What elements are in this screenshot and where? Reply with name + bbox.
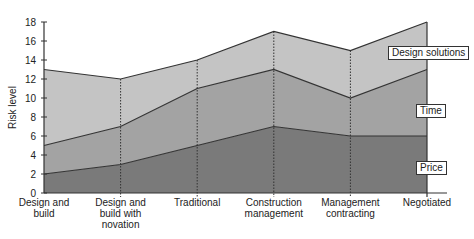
- x-category-label: Negotiated: [403, 197, 451, 208]
- legend-label-price: Price: [416, 161, 447, 175]
- y-tick-label: 8: [30, 112, 36, 123]
- x-category-label: Traditional: [174, 197, 220, 208]
- y-tick-label: 10: [25, 93, 37, 104]
- y-tick-label: 6: [30, 131, 36, 142]
- y-tick-label: 12: [25, 74, 37, 85]
- x-category-label: Constructionmanagement: [245, 197, 304, 219]
- y-tick-label: 18: [25, 17, 37, 28]
- x-category-label: Design andbuild withnovation: [95, 197, 146, 230]
- x-category-label: Design andbuild: [19, 197, 70, 219]
- y-tick-label: 4: [30, 150, 36, 161]
- legend-label-design-solutions: Design solutions: [388, 46, 469, 60]
- stacked-area-chart: 024681012141618Risk levelDesign andbuild…: [0, 0, 474, 239]
- y-tick-label: 14: [25, 55, 37, 66]
- y-axis-title: Risk level: [7, 86, 18, 129]
- y-tick-label: 2: [30, 169, 36, 180]
- x-category-label: Managementcontracting: [321, 197, 380, 219]
- y-tick-label: 16: [25, 36, 37, 47]
- legend-label-time: Time: [416, 104, 446, 118]
